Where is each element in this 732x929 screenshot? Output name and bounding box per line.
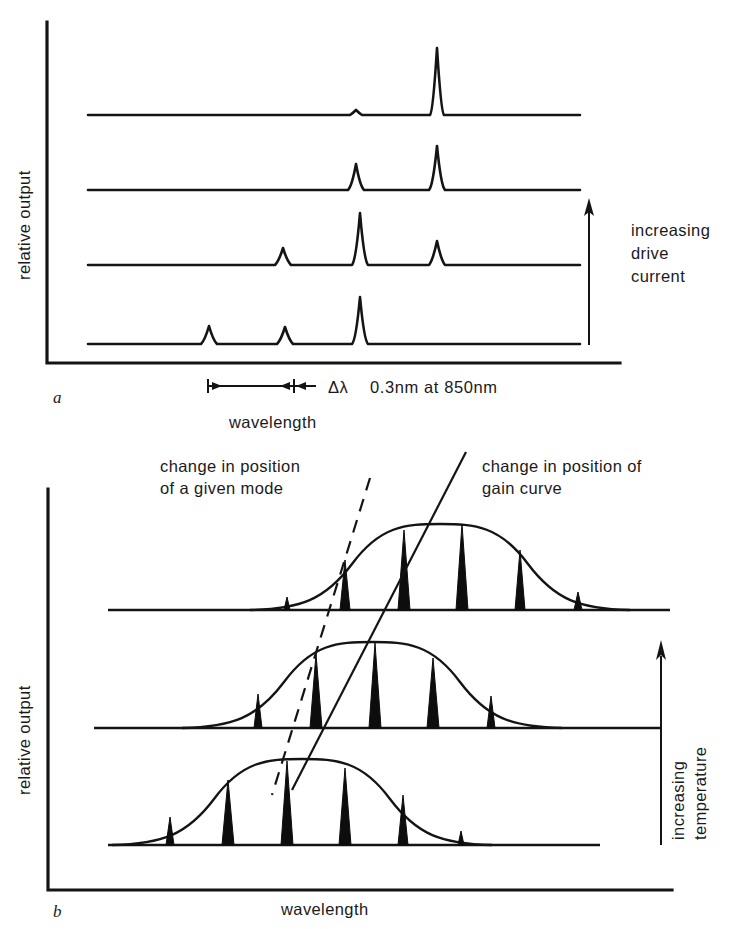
panel-b-y-axis-label: relative output (15, 685, 33, 795)
panel-a-calibration-symbol: Δλ (328, 378, 349, 396)
panel-b-arrow-label-line2: temperature (691, 747, 709, 840)
panel-b-annotation-left-line1: change in position (160, 457, 300, 475)
panel-a-x-axis-label: wavelength (228, 413, 316, 431)
panel-b-x-axis-label: wavelength (280, 900, 368, 918)
panel-b-arrow-label-line1: increasing (669, 761, 687, 840)
panel-a-id: a (53, 388, 62, 407)
panel-a-arrow-label-line2: drive (631, 244, 669, 262)
figure-text-layer: relative output Δλ 0.3nm at 850nm wavele… (0, 0, 732, 929)
panel-a-y-axis-label: relative output (15, 170, 33, 280)
panel-a-calibration-value: 0.3nm at 850nm (370, 378, 498, 396)
panel-b-annotation-left-line2: of a given mode (160, 479, 283, 497)
panel-a-arrow-label-line3: current (631, 267, 685, 285)
figure-root: relative output Δλ 0.3nm at 850nm wavele… (0, 0, 732, 929)
panel-b-annotation-right-line2: gain curve (482, 479, 562, 497)
panel-b-id: b (53, 902, 62, 921)
panel-b-annotation-right-line1: change in position of (482, 457, 642, 475)
panel-a-arrow-label-line1: increasing (631, 221, 710, 239)
